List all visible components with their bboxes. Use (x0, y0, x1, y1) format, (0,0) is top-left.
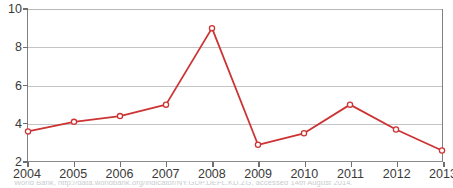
x-tick-label: 2013 (429, 168, 453, 181)
data-point-marker (25, 129, 30, 134)
series-line (28, 28, 442, 150)
x-tick-label: 2011 (337, 168, 364, 181)
series-markers (25, 26, 444, 154)
y-tick-label: 10 (0, 3, 22, 16)
x-tick-label: 2008 (198, 168, 226, 181)
data-point-marker (255, 142, 260, 147)
data-point-marker (439, 148, 444, 153)
data-point-marker (71, 119, 76, 124)
y-tick-label: 4 (0, 118, 22, 131)
data-point-marker (301, 131, 306, 136)
x-tick-label: 2012 (383, 168, 411, 181)
data-point-marker (163, 102, 168, 107)
x-tick-label: 2004 (13, 168, 41, 181)
data-point-marker (209, 26, 214, 31)
data-point-marker (117, 114, 122, 119)
x-tick-label: 2005 (59, 168, 87, 181)
y-tick-label: 6 (0, 79, 22, 92)
line-series-svg (28, 9, 442, 162)
y-tick-label: 8 (0, 41, 22, 54)
x-tick-label: 2006 (106, 168, 134, 181)
x-tick-label: 2007 (152, 168, 180, 181)
plot-area (27, 9, 443, 162)
chart-container: 246810 200420052006200720082009201020112… (0, 0, 453, 188)
y-axis-tick-labels: 246810 (0, 9, 22, 162)
source-caption-text: World Bank, http://data.worldbank.org/in… (14, 181, 353, 187)
data-point-marker (347, 102, 352, 107)
source-caption: World Bank, http://data.worldbank.org/in… (0, 181, 453, 188)
x-tick-label: 2009 (244, 168, 272, 181)
x-tick-label: 2010 (290, 168, 318, 181)
data-point-marker (393, 127, 398, 132)
